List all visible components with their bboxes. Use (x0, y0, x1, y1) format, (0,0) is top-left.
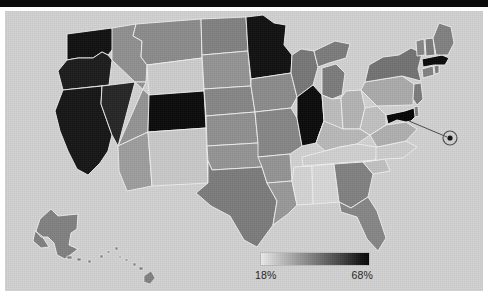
state-VT[interactable] (416, 39, 425, 56)
colorbar-legend: 18% 68% (255, 252, 373, 289)
state-CO[interactable] (148, 91, 206, 132)
state-KS[interactable] (206, 112, 258, 146)
state-MN[interactable] (246, 15, 292, 79)
state-NJ[interactable] (413, 83, 423, 105)
state-SD[interactable] (202, 51, 251, 89)
us-state-map (5, 11, 483, 291)
state-IA[interactable] (251, 73, 297, 112)
state-NM[interactable] (148, 128, 208, 186)
colorbar-max-label: 68% (351, 269, 373, 281)
state-NE[interactable] (204, 86, 255, 116)
state-NY[interactable] (365, 48, 422, 82)
state-MA[interactable] (422, 55, 449, 67)
state-MT[interactable] (133, 19, 202, 65)
state-HI[interactable] (119, 256, 155, 284)
state-MO[interactable] (255, 108, 302, 157)
state-OK[interactable] (207, 143, 262, 170)
state-WY[interactable] (147, 58, 204, 95)
state-OR[interactable] (58, 52, 112, 90)
top-banner-bar (0, 0, 488, 7)
map-canvas: 18% 68% (5, 11, 483, 291)
colorbar-gradient[interactable] (260, 252, 370, 266)
state-MD[interactable] (386, 108, 417, 124)
colorbar-min-label: 18% (255, 269, 277, 281)
state-AK[interactable] (33, 209, 78, 259)
state-ND[interactable] (201, 17, 248, 55)
state-RI[interactable] (434, 65, 439, 74)
state-ME[interactable] (433, 23, 454, 55)
state-DE[interactable] (414, 106, 419, 117)
choropleth-figure: 18% 68% (0, 0, 488, 299)
state-CT[interactable] (422, 66, 434, 78)
state-FL[interactable] (339, 197, 386, 251)
state-MI[interactable] (314, 41, 350, 99)
